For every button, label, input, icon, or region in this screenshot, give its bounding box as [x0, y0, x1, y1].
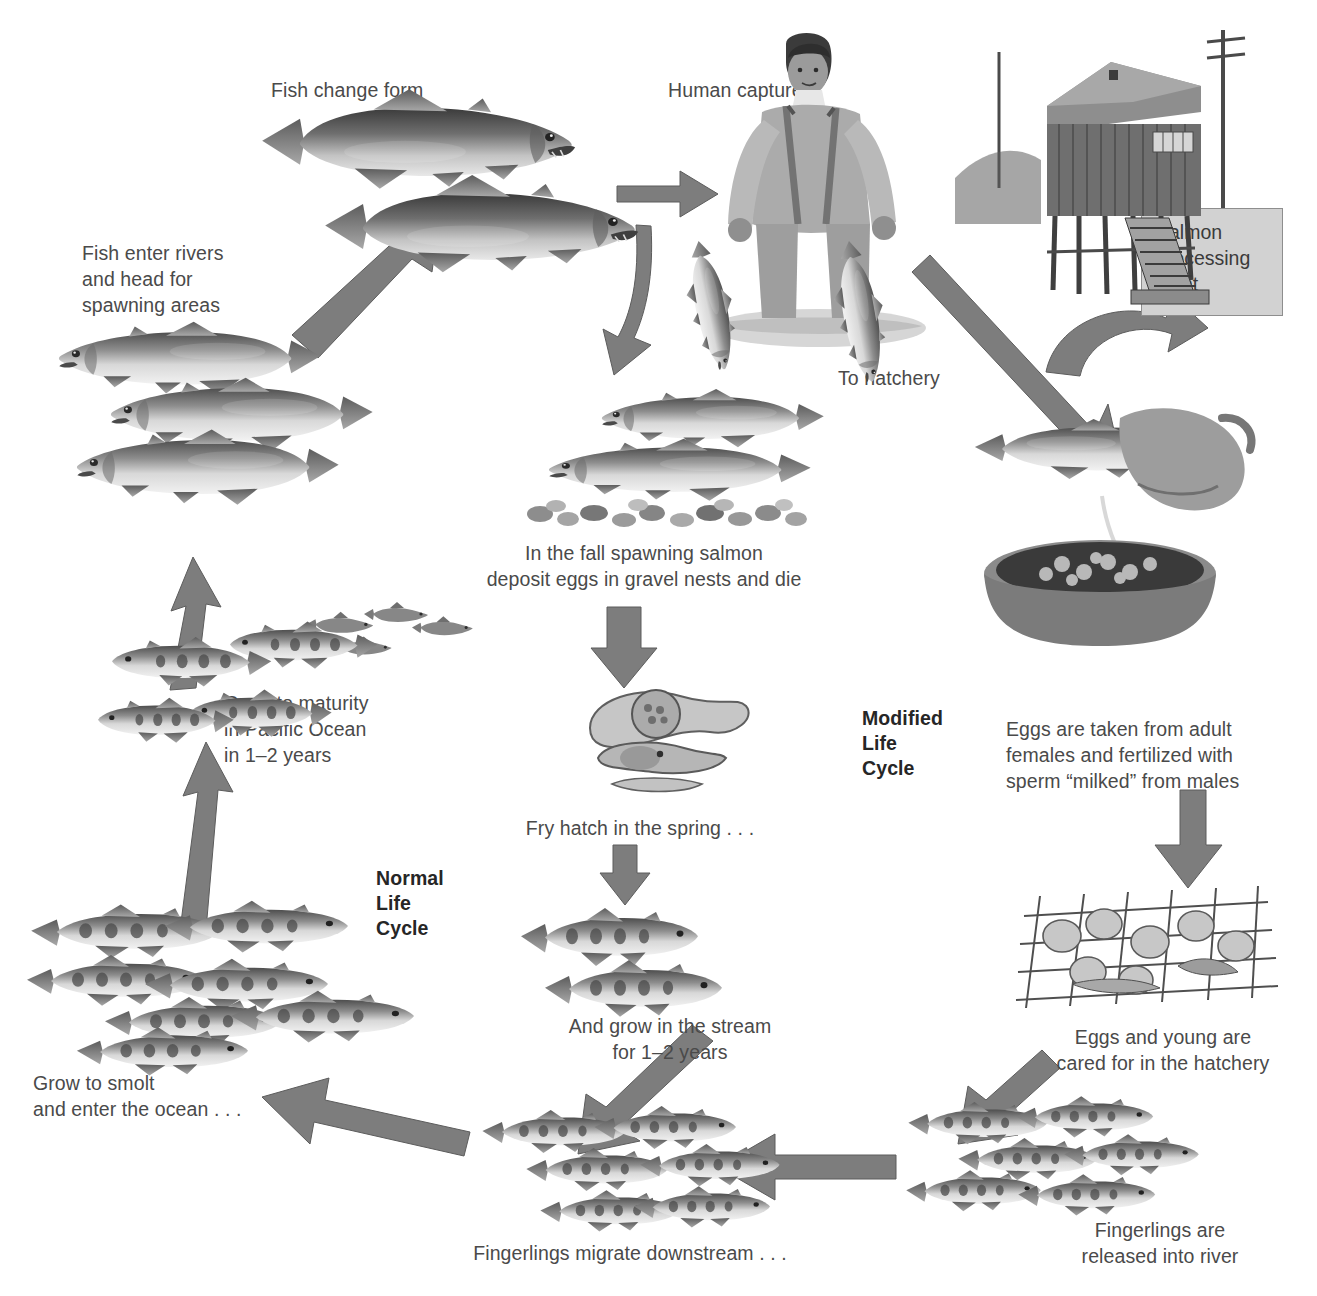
illustration-ocean-smolts [34, 600, 454, 760]
label-modified-life-cycle: Modified Life Cycle [862, 706, 943, 781]
label-fish-enter-rivers: Fish enter rivers and head for spawning … [82, 240, 224, 318]
illustration-fingerling-school-right [896, 1096, 1196, 1226]
illustration-fisherman [690, 28, 940, 348]
arrow-eggs-to-tray [1155, 790, 1222, 888]
label-eggs-and-young: Eggs and young are cared for in the hatc… [1018, 1024, 1308, 1076]
arrow-spawning-to-eggs [591, 607, 657, 688]
arrow-eggs-to-fry [600, 845, 650, 905]
illustration-milking-hand [950, 388, 1280, 688]
arrow-smolt-to-ocean [180, 742, 233, 930]
salmon-life-cycle-diagram: Fish change form Human capture Fish ente… [0, 0, 1317, 1296]
arrow-capture-to-spawning [603, 225, 652, 375]
illustration-gravel-nest-pair [500, 388, 860, 538]
label-fall-spawning: In the fall spawning salmon deposit eggs… [434, 540, 854, 592]
illustration-hatchery-building [955, 28, 1285, 328]
illustration-smolt-school [14, 906, 434, 1076]
label-eggs-taken: Eggs are taken from adult females and fe… [1006, 716, 1239, 794]
illustration-egg-embryos [560, 680, 780, 820]
illustration-river-salmon-group [28, 318, 378, 528]
arrow-migrate-to-smolt [262, 1078, 470, 1156]
illustration-parr-pair [518, 912, 838, 1022]
illustration-hatchery-tray [1000, 880, 1300, 1030]
illustration-spawning-adults-top [258, 104, 648, 234]
label-fingerlings-migrate: Fingerlings migrate downstream . . . [420, 1240, 840, 1266]
label-grow-to-smolt: Grow to smolt and enter the ocean . . . [33, 1070, 241, 1122]
illustration-fingerling-school-center [480, 1112, 780, 1242]
